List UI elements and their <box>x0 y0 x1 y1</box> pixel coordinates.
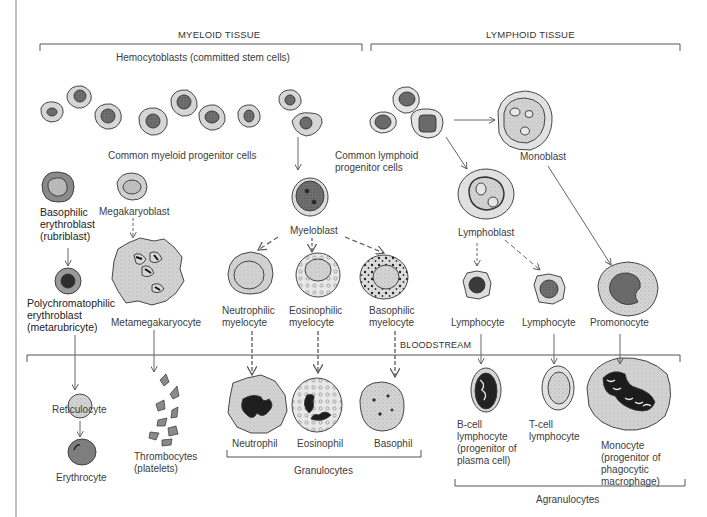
b-cell-label-1: B-cell <box>457 419 482 431</box>
monoblast-cell <box>498 91 552 150</box>
b-cell-label-3: (progenitor of <box>457 443 516 455</box>
monocyte-cell <box>587 358 671 430</box>
monocyte-label-3: phagocytic <box>601 464 649 476</box>
lymphoid-bracket <box>371 44 680 51</box>
polychromatophilic-label-3: (metarubricyte) <box>27 321 98 333</box>
erythrocyte-label: Erythrocyte <box>56 472 107 484</box>
reticulocyte-label: Reticulocyte <box>52 404 106 416</box>
polychromatophilic-label-1: Polychromatophilic <box>27 297 115 309</box>
lymphocyte-label-1: Lymphocyte <box>451 317 505 329</box>
lymphocyte-cell-2 <box>534 274 565 304</box>
polychromatophilic-label-2: erythroblast <box>27 309 82 321</box>
neutrophil-cell <box>228 375 287 433</box>
lymphocyte-label-2: Lymphocyte <box>522 317 576 329</box>
lymphoid-tissue-header: LYMPHOID TISSUE <box>486 29 575 40</box>
lymphocyte-cell-1 <box>463 271 491 299</box>
hemocytoblast-cells <box>41 86 322 136</box>
basophilic-erythroblast-label-2: erythroblast <box>40 218 95 230</box>
thrombocytes-label-1: Thrombocytes <box>134 451 197 463</box>
b-cell-label-4: plasma cell) <box>457 455 510 467</box>
b-cell-label-2: lymphocyte <box>457 431 508 443</box>
neutrophilic-myelocyte-cell <box>228 252 273 294</box>
megakaryoblast-label: Megakaryoblast <box>99 206 170 218</box>
hemocytoblasts-label: Hemocytoblasts (committed stem cells) <box>116 52 290 64</box>
erythrocyte-cell <box>68 439 96 465</box>
basophilic-erythroblast-cell <box>42 172 74 202</box>
agranulocytes-label: Agranulocytes <box>536 494 599 506</box>
myeloblast-cell <box>292 178 328 216</box>
polychromatophilic-erythroblast-cell <box>55 268 81 294</box>
t-cell-lymphocyte-cell <box>542 366 574 410</box>
basophilic-myelocyte-label-1: Basophilic <box>369 305 415 317</box>
common-lymphoid-label-1: Common lymphoid <box>335 150 418 162</box>
basophilic-myelocyte-cell <box>360 255 408 299</box>
basophilic-erythroblast-label-1: Basophilic <box>40 206 88 218</box>
thrombocytes-cluster <box>149 374 179 446</box>
b-cell-lymphocyte-cell <box>471 368 501 412</box>
basophilic-myelocyte-label-2: myelocyte <box>369 317 414 329</box>
myeloid-bracket <box>40 44 362 51</box>
t-cell-label-2: lymphocyte <box>529 431 580 443</box>
metamegakaryocyte-cell <box>112 238 184 305</box>
myeloblast-label: Myeloblast <box>290 225 338 237</box>
basophil-cell <box>360 382 404 431</box>
bloodstream-header: BLOODSTREAM <box>400 340 471 350</box>
t-cell-label-1: T-cell <box>529 419 553 431</box>
monocyte-label-1: Monocyte <box>601 440 644 452</box>
metamegakaryocyte-label: Metamegakaryocyte <box>111 317 201 329</box>
common-lymphoid-label-2: progenitor cells <box>335 162 403 174</box>
neutrophilic-myelocyte-label-2: myelocyte <box>222 317 267 329</box>
promonocyte-label: Promonocyte <box>590 317 649 329</box>
thrombocytes-label-2: (platelets) <box>134 463 178 475</box>
basophil-label: Basophil <box>374 438 412 450</box>
monocyte-label-4: macrophage) <box>601 476 660 488</box>
eosinophil-cell <box>292 378 342 432</box>
basophilic-erythroblast-label-3: (rubriblast) <box>40 230 90 242</box>
monoblast-label: Monoblast <box>520 151 566 163</box>
granulocytes-label: Granulocytes <box>294 465 353 477</box>
granulocytes-bracket <box>227 450 421 457</box>
neutrophilic-myelocyte-label-1: Neutrophilic <box>222 305 275 317</box>
eosinophil-label: Eosinophil <box>297 438 343 450</box>
promonocyte-cell <box>598 262 658 316</box>
monocyte-label-2: (progenitor of <box>601 452 660 464</box>
bloodstream-line <box>27 355 680 362</box>
lymphoblast-cell <box>458 169 514 219</box>
eosinophilic-myelocyte-label-1: Eosinophilic <box>289 305 342 317</box>
myeloid-tissue-header: MYELOID TISSUE <box>178 29 260 40</box>
common-myeloid-label: Common myeloid progenitor cells <box>108 150 256 162</box>
eosinophilic-myelocyte-cell <box>296 253 340 297</box>
lymphoblast-label: Lymphoblast <box>458 227 514 239</box>
eosinophilic-myelocyte-label-2: myelocyte <box>289 317 334 329</box>
neutrophil-label: Neutrophil <box>232 438 278 450</box>
megakaryoblast-cell <box>117 173 147 200</box>
lymphoid-progenitor-cells <box>370 87 443 138</box>
